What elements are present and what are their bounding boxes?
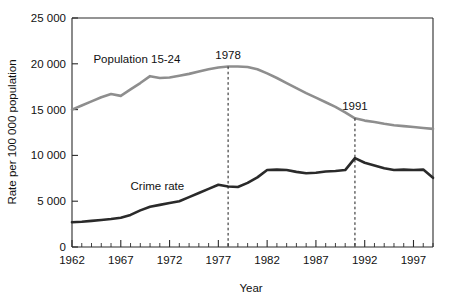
series-label-crime-rate: Crime rate xyxy=(131,180,185,192)
series-line-crime-rate xyxy=(72,158,433,222)
x-tick-label: 1992 xyxy=(352,254,378,266)
inline-series-labels: Population 15-24Crime rate xyxy=(93,53,184,192)
series-line-population-15-24 xyxy=(72,67,433,129)
y-axis-tick-labels: 05 00010 00015 00020 00025 000 xyxy=(31,12,66,253)
y-axis-title: Rate per 100 000 population xyxy=(6,59,18,204)
y-tick-label: 10 000 xyxy=(31,149,66,161)
annotation-label-1978: 1978 xyxy=(215,49,241,61)
y-tick-label: 15 000 xyxy=(31,104,66,116)
chart-page: 05 00010 00015 00020 00025 000 196219671… xyxy=(0,0,450,303)
y-tick-label: 20 000 xyxy=(31,58,66,70)
x-tick-label: 1982 xyxy=(254,254,280,266)
x-axis-major-ticks xyxy=(72,240,413,247)
x-tick-label: 1962 xyxy=(59,254,85,266)
x-axis-tick-labels: 19621967197219771982198719921997 xyxy=(59,254,426,266)
series-label-population-15-24: Population 15-24 xyxy=(93,53,181,65)
annotation-label-1991: 1991 xyxy=(342,100,368,112)
x-tick-label: 1987 xyxy=(303,254,329,266)
x-axis-minor-ticks xyxy=(82,243,433,247)
x-axis-title: Year xyxy=(239,282,262,294)
x-tick-label: 1977 xyxy=(206,254,232,266)
series-lines xyxy=(72,67,433,223)
x-tick-label: 1967 xyxy=(108,254,134,266)
y-tick-label: 0 xyxy=(60,241,66,253)
x-tick-label: 1997 xyxy=(401,254,427,266)
y-axis-ticks xyxy=(72,18,78,247)
annotations: 19781991 xyxy=(215,49,367,247)
line-chart: 05 00010 00015 00020 00025 000 196219671… xyxy=(0,0,450,303)
y-tick-label: 5 000 xyxy=(37,195,66,207)
x-tick-label: 1972 xyxy=(157,254,183,266)
y-tick-label: 25 000 xyxy=(31,12,66,24)
